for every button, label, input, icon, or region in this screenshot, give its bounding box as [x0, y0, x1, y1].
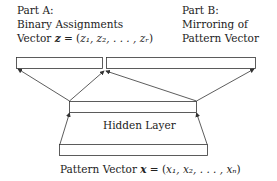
part-b-label: Part B: Mirroring of Pattern Vector	[182, 4, 259, 44]
part-a-subtitle: Binary Assignments	[17, 18, 153, 30]
hidden-layer-label: Hidden Layer	[103, 119, 176, 131]
hidden-layer-top-bar	[70, 102, 197, 113]
part-b-title: Part B:	[182, 4, 259, 16]
pattern-vector-bar	[60, 145, 208, 156]
arrow-hidden-to-a-right	[70, 71, 105, 101]
part-b-subtitle-2: Pattern Vector	[182, 32, 259, 44]
part-a-vector: Vector z = (z₁, z₂, . . . , zᵣ)	[17, 32, 153, 44]
pattern-vector-label: Pattern Vector x = (x₁, x₂, . . . , xₙ)	[60, 163, 241, 175]
part-b-subtitle: Mirroring of	[182, 18, 259, 30]
arrow-input-to-hidden-left	[60, 113, 70, 144]
arrow-input-to-hidden-right	[197, 113, 208, 144]
arrow-hidden-to-a-left	[18, 69, 70, 101]
arrow-hidden-to-b-left	[106, 71, 197, 101]
part-b-output-box	[107, 58, 256, 69]
part-a-output-box	[17, 58, 103, 69]
part-a-title: Part A:	[17, 4, 153, 16]
arrow-hidden-to-b-right	[197, 69, 255, 101]
part-a-label: Part A: Binary Assignments Vector z = (z…	[17, 4, 153, 44]
